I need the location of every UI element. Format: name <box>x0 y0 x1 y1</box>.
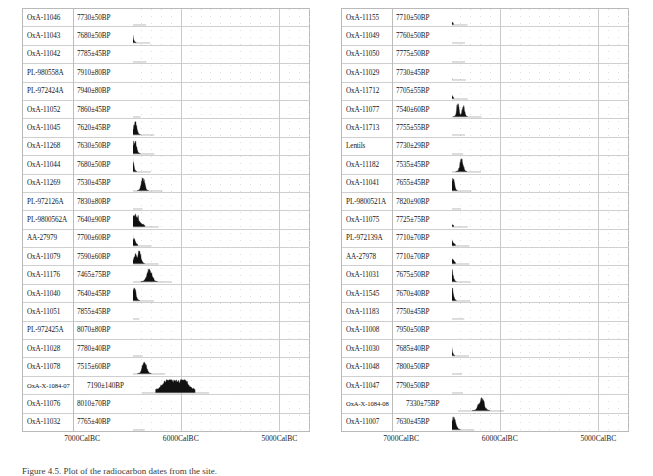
gridline-minor <box>529 9 530 431</box>
x-axis-tick-label: 5000CalBC <box>261 434 297 443</box>
lab-code: OxA-11052 <box>27 106 60 114</box>
sample-row[interactable]: OxA-110457620±45BP <box>23 119 309 137</box>
radiocarbon-date: 7760±50BP <box>392 32 429 40</box>
lab-code: PL-972425A <box>27 326 64 334</box>
distribution-curve <box>137 362 151 374</box>
x-axis-tick-label: 6000CalBC <box>163 434 199 443</box>
sample-row[interactable]: PL-980558A7910±80BP <box>23 64 309 82</box>
sample-row[interactable]: OxA-110777540±60BP <box>342 101 628 119</box>
gridline-minor <box>579 9 580 431</box>
sample-label-cell: OxA-110527860±45BP <box>23 101 133 118</box>
sample-row[interactable]: OxA-X-1084-077190±140BP <box>23 377 309 395</box>
sample-label-cell: OxA-111557710±50BP <box>342 9 452 26</box>
sample-label-cell: OxA-110497760±50BP <box>342 27 452 44</box>
gridline-minor <box>260 9 261 431</box>
sample-row[interactable]: OxA-110757725±75BP <box>342 211 628 229</box>
sample-row[interactable]: OxA-110787515±60BP <box>23 358 309 376</box>
sample-row[interactable]: OxA-110467730±50BP <box>23 9 309 27</box>
radiocarbon-date: 7670±40BP <box>392 290 429 298</box>
lab-code: OxA-11051 <box>27 308 60 316</box>
lab-code: PL-972139A <box>346 234 383 242</box>
sample-row[interactable]: OxA-110527860±45BP <box>23 101 309 119</box>
sample-row[interactable]: OxA-110077630±45BP <box>342 414 628 431</box>
sample-label-cell: OxA-111767465±75BP <box>23 266 133 283</box>
radiocarbon-date: 7785±45BP <box>73 50 110 58</box>
sample-label-cell: PL-9800562A7640±90BP <box>23 211 133 228</box>
sample-label-cell: OxA-110467730±50BP <box>23 9 133 26</box>
sample-row[interactable]: OxA-110317675±50BP <box>342 266 628 284</box>
sample-row[interactable]: PL-972126A7830±80BP <box>23 193 309 211</box>
sample-row[interactable]: OxA-110517855±45BP <box>23 303 309 321</box>
gridline-minor <box>490 9 491 431</box>
distribution-curve <box>137 177 148 190</box>
figure-caption: Figure 4.5. Plot of the radiocarbon date… <box>22 466 632 476</box>
lab-code: PL-972424A <box>27 87 64 95</box>
sample-row[interactable]: OxA-110327765±40BP <box>23 414 309 431</box>
sample-row[interactable]: OxA-110297730±45BP <box>342 64 628 82</box>
gridline-minor <box>161 9 162 431</box>
sample-label-cell: AA-279787710±70BP <box>342 248 452 265</box>
sample-row[interactable]: OxA-115457670±40BP <box>342 285 628 303</box>
sample-row[interactable]: PL-9800562A7640±90BP <box>23 211 309 229</box>
sample-row[interactable]: PL-9800521A7820±90BP <box>342 193 628 211</box>
lab-code: OxA-11049 <box>346 32 379 40</box>
sample-row[interactable]: OxA-111767465±75BP <box>23 266 309 284</box>
gridline-minor <box>191 9 192 431</box>
sample-label-cell: OxA-111837750±45BP <box>342 303 452 320</box>
sample-label-cell: OxA-117137755±55BP <box>342 119 452 136</box>
sample-row[interactable]: OxA-110407640±45BP <box>23 285 309 303</box>
sample-row[interactable]: OxA-110507775±50BP <box>342 46 628 64</box>
sample-row[interactable]: OxA-110287780±40BP <box>23 340 309 358</box>
sample-row[interactable]: OxA-112697530±45BP <box>23 175 309 193</box>
label-column-separator-right <box>392 9 393 431</box>
sample-row[interactable]: OxA-110417655±45BP <box>342 175 628 193</box>
sample-row[interactable]: AA-279787710±70BP <box>342 248 628 266</box>
sample-row[interactable]: OxA-110437680±50BP <box>23 27 309 45</box>
sample-row[interactable]: OxA-110087950±50BP <box>342 322 628 340</box>
sample-row[interactable]: OxA-110487800±50BP <box>342 358 628 376</box>
plot-frame-right: OxA-111557710±50BPOxA-110497760±50BPOxA-… <box>341 8 629 432</box>
sample-row[interactable]: OxA-117127705±55BP <box>342 83 628 101</box>
gridline-major <box>181 9 182 431</box>
sample-row[interactable]: OxA-112687630±50BP <box>23 138 309 156</box>
sample-label-cell: OxA-110407640±45BP <box>23 285 133 302</box>
sample-row[interactable]: OxA-110427785±45BP <box>23 46 309 64</box>
radiocarbon-date: 8010±70BP <box>73 400 110 408</box>
sample-row[interactable]: OxA-110797590±60BP <box>23 248 309 266</box>
lab-code: PL-980558A <box>27 69 64 77</box>
x-axis-tick-label: 6000CalBC <box>482 434 518 443</box>
radiocarbon-date: 7950±50BP <box>392 326 429 334</box>
sample-row[interactable]: OxA-110477790±50BP <box>342 377 628 395</box>
sample-row[interactable]: PL-972425A8070±80BP <box>23 322 309 340</box>
sample-row[interactable]: PL-972139A7710±70BP <box>342 230 628 248</box>
gridline-major <box>500 9 501 431</box>
sample-row[interactable]: OxA-111827535±45BP <box>342 156 628 174</box>
sample-row[interactable]: PL-972424A7940±80BP <box>23 83 309 101</box>
sample-row[interactable]: OxA-111557710±50BP <box>342 9 628 27</box>
lab-code: OxA-11029 <box>346 69 379 77</box>
sample-row[interactable]: OxA-110307685±40BP <box>342 340 628 358</box>
sample-row[interactable]: OxA-110768010±70BP <box>23 395 309 413</box>
gridline-minor <box>151 9 152 431</box>
radiocarbon-date: 7730±29BP <box>392 142 429 150</box>
sample-row[interactable]: OxA-117137755±55BP <box>342 119 628 137</box>
sample-row[interactable]: OxA-110497760±50BP <box>342 27 628 45</box>
lab-code: OxA-11046 <box>27 14 60 22</box>
radiocarbon-date: 7590±60BP <box>73 253 110 261</box>
radiocarbon-date: 7685±40BP <box>392 345 429 353</box>
radiocarbon-date: 7640±45BP <box>73 290 110 298</box>
gridline-major <box>279 9 280 431</box>
lab-code: OxA-11040 <box>27 290 60 298</box>
radiocarbon-date: 7640±90BP <box>73 216 110 224</box>
sample-row[interactable]: OxA-110447680±50BP <box>23 156 309 174</box>
sample-label-cell: OxA-112687630±50BP <box>23 138 133 155</box>
lab-code: OxA-11032 <box>27 418 60 426</box>
lab-code: OxA-11007 <box>346 418 379 426</box>
sample-row[interactable]: Lentils7730±29BP <box>342 138 628 156</box>
sample-row[interactable]: OxA-X-1084-087330±75BP <box>342 395 628 413</box>
radiocarbon-date: 7755±55BP <box>392 124 429 132</box>
sample-row[interactable]: OxA-111837750±45BP <box>342 303 628 321</box>
radiocarbon-date: 7790±50BP <box>392 382 429 390</box>
gridline-minor <box>589 9 590 431</box>
sample-row[interactable]: AA-279797700±60BP <box>23 230 309 248</box>
